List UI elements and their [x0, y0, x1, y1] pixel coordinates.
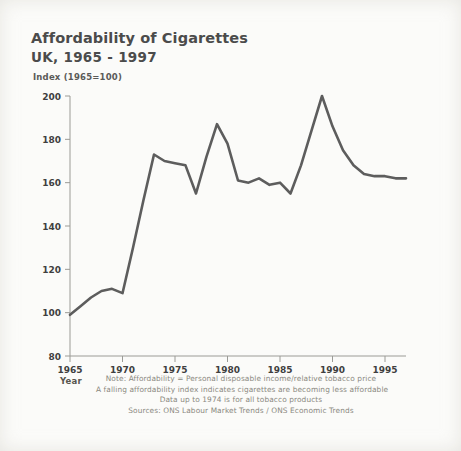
y-tick-label: 180 [42, 135, 61, 145]
footnote-line: Data up to 1974 is for all tobacco produ… [96, 395, 386, 406]
data-series-line [70, 96, 406, 315]
x-axis-ticks: 1965197019751980198519901995 [57, 356, 397, 375]
y-tick-label: 120 [42, 265, 61, 275]
footnote-line: Note: Affordability = Personal disposabl… [96, 374, 386, 385]
y-tick-label: 140 [42, 222, 61, 232]
footnote-line: A falling affordability index indicates … [96, 385, 386, 396]
y-tick-label: 160 [42, 178, 61, 188]
y-tick-label: 100 [42, 308, 61, 318]
y-axis-ticks: 80100120140160180200 [42, 92, 70, 362]
x-tick-label: 1965 [57, 365, 82, 375]
x-axis-label: Year [60, 376, 82, 386]
y-tick-label: 80 [48, 352, 61, 362]
footnotes-block: Note: Affordability = Personal disposabl… [96, 374, 386, 416]
footnote-line: Sources: ONS Labour Market Trends / ONS … [96, 406, 386, 417]
chart-page: Affordability of Cigarettes UK, 1965 - 1… [0, 0, 461, 451]
y-tick-label: 200 [42, 92, 61, 102]
